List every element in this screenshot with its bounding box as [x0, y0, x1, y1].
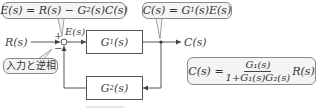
error-label: E(s) — [65, 27, 85, 37]
output-eq-rhs: (s)E(s) — [195, 5, 232, 16]
output-label: C(s) — [184, 37, 207, 48]
output-eq-lhs: C(s) = G — [143, 5, 191, 16]
error-eq-lhs: E(s) = R(s) − G — [0, 5, 86, 16]
plus-sign: + — [54, 31, 62, 41]
closed-loop-lhs: C(s) = — [188, 66, 223, 77]
input-label: R(s) — [5, 37, 28, 48]
minus-sign: − — [54, 44, 62, 54]
phase-note-callout: 入力と逆相 — [3, 58, 58, 74]
g2-arg: (s) — [114, 82, 128, 95]
error-equation-callout: E(s) = R(s) − G2(s)C(s) — [2, 2, 126, 19]
feedback-block-g2: G2(s) — [86, 76, 143, 100]
phase-note-text: 入力と逆相 — [6, 61, 56, 71]
fraction-numerator: G₁(s) — [244, 60, 271, 72]
g1-label: G — [101, 36, 110, 49]
g2-label: G — [101, 82, 110, 95]
fraction-denominator: 1+G₁(s)G₂(s) — [226, 72, 291, 83]
closed-loop-callout: C(s) = G₁(s) 1+G₁(s)G₂(s) R(s) — [187, 57, 316, 85]
error-eq-rhs: (s)C(s) — [91, 5, 128, 16]
closed-loop-fraction: G₁(s) 1+G₁(s)G₂(s) — [226, 60, 291, 83]
g1-arg: (s) — [114, 36, 128, 49]
output-equation-callout: C(s) = G1(s)E(s) — [142, 2, 232, 19]
closed-loop-rhs: R(s) — [292, 66, 315, 77]
forward-block-g1: G1(s) — [86, 30, 143, 54]
